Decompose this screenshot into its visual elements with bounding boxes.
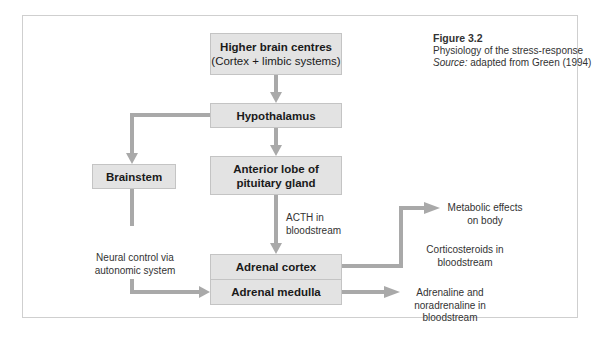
neural-line1: Neural control via — [80, 252, 190, 265]
adrenaline-label: Adrenaline and noradrenaline in bloodstr… — [400, 287, 500, 325]
adrenal-medulla-label: Adrenal medulla — [231, 285, 320, 299]
figure-title: Physiology of the stress-response — [433, 45, 591, 58]
arrow-cortex-to-metabolic — [342, 208, 425, 266]
acth-label: ACTH in bloodstream — [286, 212, 346, 237]
figure-caption: Figure 3.2 Physiology of the stress-resp… — [433, 32, 591, 70]
hypothalamus-label: Hypothalamus — [236, 109, 315, 123]
higher-brain-centres-box: Higher brain centres (Cortex + limbic sy… — [210, 33, 342, 75]
neural-control-label: Neural control via autonomic system — [80, 252, 190, 277]
arrow-neural-to-medulla — [132, 279, 200, 292]
hypothalamus-box: Hypothalamus — [210, 103, 342, 128]
metabolic-line2: on body — [440, 215, 530, 228]
metabolic-line1: Metabolic effects — [440, 202, 530, 215]
corticosteroids-line1: Corticosteroids in — [415, 244, 515, 257]
source-label: Source: — [433, 57, 467, 68]
corticosteroids-label: Corticosteroids in bloodstream — [415, 244, 515, 269]
figure-number: Figure 3.2 — [433, 32, 591, 45]
anterior-line2: pituitary gland — [236, 176, 315, 190]
adrenaline-line3: bloodstream — [400, 312, 500, 325]
higher-brain-subtitle: (Cortex + limbic systems) — [211, 54, 340, 68]
acth-line1: ACTH in — [286, 212, 346, 225]
adrenal-cortex-label: Adrenal cortex — [236, 260, 317, 274]
figure-source: Source: adapted from Green (1994) — [433, 57, 591, 70]
arrow-hypothalamus-to-brainstem — [132, 115, 210, 154]
neural-line2: autonomic system — [80, 265, 190, 278]
adrenal-cortex-box: Adrenal cortex — [210, 254, 342, 279]
adrenaline-line1: Adrenaline and — [400, 287, 500, 300]
higher-brain-title: Higher brain centres — [220, 40, 332, 54]
source-text: adapted from Green (1994) — [467, 57, 591, 68]
adrenaline-line2: noradrenaline in — [400, 300, 500, 313]
metabolic-effects-label: Metabolic effects on body — [440, 202, 530, 227]
corticosteroids-line2: bloodstream — [415, 257, 515, 270]
anterior-line1: Anterior lobe of — [233, 162, 319, 176]
acth-line2: bloodstream — [286, 225, 346, 238]
brainstem-box: Brainstem — [92, 164, 176, 189]
anterior-pituitary-box: Anterior lobe of pituitary gland — [210, 156, 342, 195]
brainstem-label: Brainstem — [106, 170, 162, 184]
adrenal-medulla-box: Adrenal medulla — [210, 279, 342, 305]
